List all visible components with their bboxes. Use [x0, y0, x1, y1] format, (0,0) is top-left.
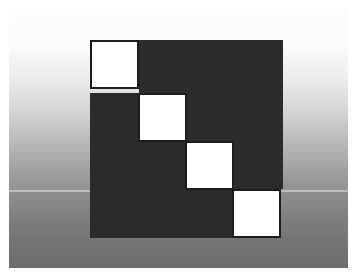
white-tile-3	[185, 141, 234, 190]
figure-stage	[9, 8, 348, 268]
image-frame	[0, 0, 357, 278]
white-tile-1	[90, 40, 139, 89]
white-tile-2	[138, 93, 187, 142]
staircase-segment-row-4	[90, 189, 234, 238]
white-tile-4	[232, 189, 281, 238]
staircase-segment-row-1	[139, 40, 283, 93]
